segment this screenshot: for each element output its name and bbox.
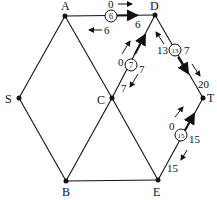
flow-network-diagram: 6 7 13 15 0 6 6 0 7 7 13 7 20 0 15 15 A … — [0, 0, 217, 200]
label-dt-bottom: 20 — [198, 78, 210, 90]
label-et-left: 0 — [169, 120, 175, 132]
node-b — [64, 179, 69, 184]
node-label-t: T — [207, 91, 215, 105]
capacity-circles — [105, 10, 187, 141]
node-e — [156, 178, 161, 183]
label-ad-right: 6 — [135, 18, 141, 30]
node-s — [17, 96, 22, 101]
label-ad-bottom: 6 — [104, 24, 110, 36]
arrow-et-backward — [181, 150, 187, 160]
edge-s-a — [19, 16, 65, 98]
capacity-d-t: 13 — [172, 47, 180, 55]
label-cd-bottom: 7 — [121, 82, 127, 94]
edge-b-e — [66, 180, 158, 181]
capacity-a-d: 6 — [109, 12, 113, 21]
node-t — [201, 96, 206, 101]
node-a — [63, 14, 68, 19]
label-cd-right: 7 — [139, 63, 145, 75]
node-c — [110, 96, 115, 101]
capacity-c-d: 7 — [129, 61, 133, 70]
node-label-s: S — [5, 92, 12, 106]
node-d — [153, 13, 158, 18]
edge-d-t — [155, 15, 203, 98]
node-label-c: C — [97, 93, 105, 107]
label-et-right: 15 — [189, 133, 201, 145]
arrow-et-forward — [175, 107, 183, 117]
label-ad-top: 0 — [108, 0, 114, 10]
node-label-e: E — [153, 185, 160, 199]
flow-arrows — [114, 15, 194, 132]
flow-arrow-e-t — [184, 114, 194, 132]
edge-c-e — [112, 98, 158, 180]
edge-b-c — [66, 98, 112, 181]
node-label-b: B — [62, 185, 70, 199]
arrow-cd-backward — [130, 74, 138, 87]
label-dt-right: 7 — [184, 44, 190, 56]
nodes — [17, 13, 206, 184]
arrow-cd-forward — [122, 41, 130, 54]
label-cd-left: 0 — [118, 56, 124, 68]
capacity-e-t: 15 — [178, 132, 186, 140]
label-dt-left: 13 — [157, 44, 169, 56]
node-label-a: A — [61, 0, 70, 13]
arrow-dt-forward — [192, 64, 200, 76]
flow-arrow-c-d — [135, 35, 145, 54]
arrow-dt-backward — [156, 32, 164, 44]
edge-s-b — [19, 98, 66, 181]
node-label-d: D — [150, 0, 159, 13]
label-et-bottom: 15 — [167, 162, 179, 174]
flow-arrow-d-t — [178, 57, 188, 73]
